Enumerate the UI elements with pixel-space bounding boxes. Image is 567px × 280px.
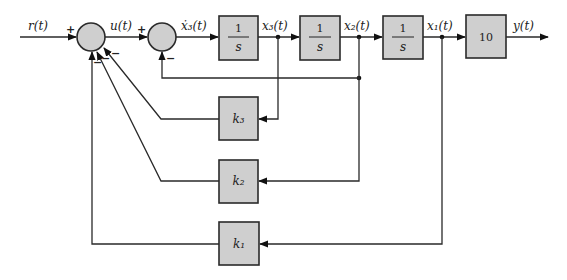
block-diagram: 1 s 1 s 1 s 10 k₃ k₂ k₁ xyxy=(0,0,567,280)
label-x3dot: ẋ₃(t) xyxy=(181,19,207,33)
svg-text:k₁: k₁ xyxy=(233,237,245,251)
svg-text:1: 1 xyxy=(235,22,242,35)
integrator-block-2: 1 s xyxy=(300,16,340,60)
label-x2: x₂(t) xyxy=(344,19,370,33)
sum-junction-1 xyxy=(77,23,105,51)
svg-text:1: 1 xyxy=(317,22,324,35)
sign-sum1-k1: − xyxy=(93,56,102,69)
sum-junction-2 xyxy=(148,23,176,51)
svg-text:s: s xyxy=(235,40,241,54)
label-r: r(t) xyxy=(28,19,48,33)
sign-sum1-r: + xyxy=(66,23,75,36)
label-y: y(t) xyxy=(512,19,534,33)
svg-text:10: 10 xyxy=(479,31,493,44)
svg-text:k₃: k₃ xyxy=(232,112,244,126)
label-x3: x₃(t) xyxy=(262,19,288,33)
k2-feedback-line xyxy=(97,52,219,181)
k2-gain-block: k₂ xyxy=(219,160,258,203)
k1-gain-block: k₁ xyxy=(219,222,259,265)
svg-text:k₂: k₂ xyxy=(232,174,244,188)
sign-sum1-k2: − xyxy=(101,52,110,65)
k3-gain-block: k₃ xyxy=(219,97,258,140)
sign-sum1-k3: − xyxy=(111,47,120,60)
x2-to-k2-line xyxy=(259,78,359,181)
x1-to-k1-line xyxy=(260,37,442,244)
svg-text:1: 1 xyxy=(400,22,407,35)
label-x1: x₁(t) xyxy=(427,19,453,33)
svg-text:s: s xyxy=(317,40,323,54)
integrator-block-3: 1 s xyxy=(383,16,423,59)
sign-sum2-fb: − xyxy=(166,52,175,65)
svg-text:s: s xyxy=(400,40,406,54)
integrator-block-1: 1 s xyxy=(219,16,258,60)
sign-sum2-u: + xyxy=(137,23,146,36)
output-gain-block: 10 xyxy=(466,15,506,58)
label-u: u(t) xyxy=(110,19,132,33)
